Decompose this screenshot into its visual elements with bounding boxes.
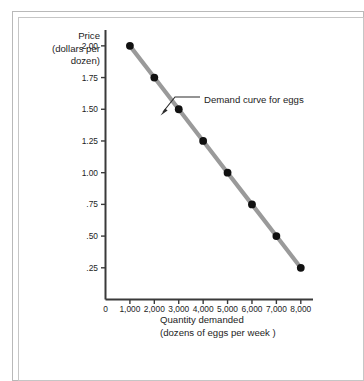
x-axis-tick-label: 4,000	[193, 304, 214, 314]
annotation-arrow-icon	[161, 109, 168, 116]
y-axis-tick-label: 1.75	[60, 73, 98, 83]
data-point-marker	[175, 105, 183, 113]
x-axis-title-line-2: (dozens of eggs per week )	[160, 327, 276, 340]
data-point-marker	[272, 232, 280, 240]
data-point-marker	[224, 169, 232, 177]
y-axis-title-line-3: dozen)	[52, 55, 100, 68]
y-axis-tick-label: .75	[60, 199, 98, 209]
y-axis-tick-label: 1.50	[60, 104, 98, 114]
x-axis-tick-label: 5,000	[217, 304, 238, 314]
y-axis-tick-label: 2.00	[60, 41, 98, 51]
y-axis-tick-label: 1.00	[60, 168, 98, 178]
x-axis-tick-label: 0	[103, 304, 108, 314]
data-point-marker	[297, 264, 305, 272]
data-point-marker	[150, 74, 158, 82]
demand-curve-annotation-label: Demand curve for eggs	[204, 94, 304, 105]
axes-group	[106, 30, 314, 300]
x-axis-tick-label: 1,000	[119, 304, 140, 314]
x-axis-title-line-1: Quantity demanded	[160, 314, 276, 327]
x-axis-tick-label: 3,000	[168, 304, 189, 314]
y-axis-tick-label: .25	[60, 263, 98, 273]
data-point-marker	[199, 137, 207, 145]
x-axis-tick-label: 2,000	[144, 304, 165, 314]
x-axis-tick-label: 6,000	[241, 304, 262, 314]
x-axis-title: Quantity demanded (dozens of eggs per we…	[160, 314, 276, 339]
y-axis-tick-label: .50	[60, 231, 98, 241]
x-axis-tick-label: 7,000	[266, 304, 287, 314]
y-axis-tick-label: 1.25	[60, 136, 98, 146]
x-axis-tick-label: 8,000	[290, 304, 311, 314]
data-point-marker	[248, 200, 256, 208]
data-point-marker	[126, 42, 134, 50]
